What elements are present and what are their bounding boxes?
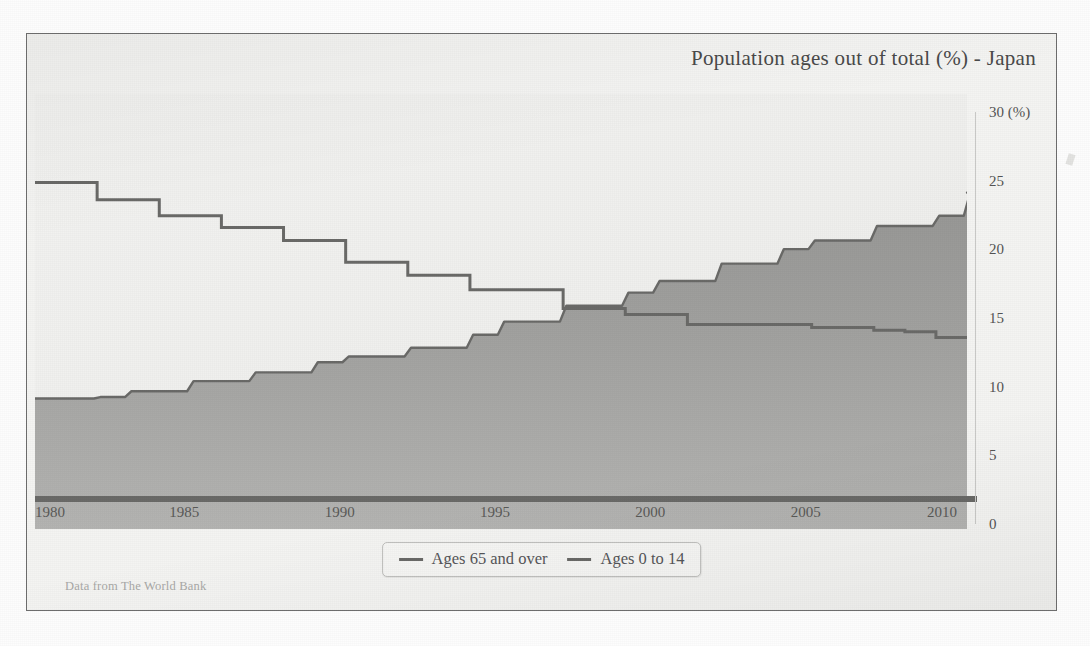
chart-figure-frame: Population ages out of total (%) - Japan	[26, 33, 1057, 611]
legend-label: Ages 0 to 14	[601, 549, 685, 569]
y-tick-label-30: 30 (%)	[989, 104, 1030, 121]
plot-area	[35, 94, 967, 529]
y-tick-label-25: 25	[989, 172, 1004, 189]
y-tick-label-20: 20	[989, 241, 1004, 258]
x-tick-label-2005: 2005	[791, 504, 821, 521]
x-tick-label-2010: 2010	[927, 504, 957, 521]
scan-artifact	[1065, 153, 1075, 166]
legend-line-swatch-icon	[568, 558, 592, 561]
x-tick-label-1990: 1990	[325, 504, 355, 521]
legend-label: Ages 65 and over	[432, 549, 548, 569]
chart-plot-svg	[35, 94, 967, 529]
y-tick-label-15: 15	[989, 310, 1004, 327]
chart-title: Population ages out of total (%) - Japan	[691, 46, 1036, 71]
x-axis-line	[35, 496, 977, 502]
y-axis: 30 (%)2520151050	[975, 90, 1055, 540]
x-tick-label-1985: 1985	[169, 504, 199, 521]
chart-legend: Ages 65 and overAges 0 to 14	[382, 542, 702, 577]
y-tick-label-5: 5	[989, 447, 997, 464]
source-note: Data from The World Bank	[65, 579, 207, 594]
x-tick-label-2000: 2000	[635, 504, 665, 521]
legend-item-1[interactable]: Ages 65 and over	[399, 549, 548, 569]
x-tick-label-1980: 1980	[35, 504, 65, 521]
x-axis: 1980198519901995200020052010	[27, 504, 1058, 528]
legend-item-2[interactable]: Ages 0 to 14	[568, 549, 685, 569]
y-tick-label-10: 10	[989, 378, 1004, 395]
legend-line-swatch-icon	[399, 558, 423, 561]
x-tick-label-1995: 1995	[480, 504, 510, 521]
figure-page: Population ages out of total (%) - Japan	[0, 0, 1090, 646]
y-axis-line	[975, 112, 976, 524]
